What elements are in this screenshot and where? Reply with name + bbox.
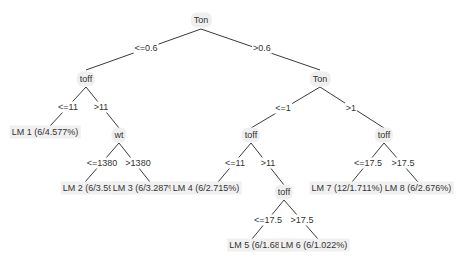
edge-label: <=11 [224,158,246,169]
edge-label: >17.5 [290,215,315,226]
edge-label: <=17.5 [253,215,283,226]
split-node: toff [77,72,95,87]
edge-label: >11 [93,102,110,113]
split-node: wt [112,128,127,143]
leaf-model: LM 1 (6/4.577%) [10,126,81,139]
edge-label: <=0.6 [133,43,158,54]
edge-label: <=11 [57,102,79,113]
split-node: toff [275,185,293,200]
edge-label: >17.5 [391,158,416,169]
edge-label: <=1380 [86,158,119,169]
split-node: toff [375,128,393,143]
leaf-model: LM 6 (6/1.022%) [279,239,350,252]
leaf-model: LM 8 (6/2.676%) [383,182,454,195]
split-node: Ton [310,72,331,87]
split-node: toff [242,128,260,143]
edge-label: >0.6 [252,43,272,54]
edge-label: >11 [260,158,277,169]
split-node: Ton [191,13,212,28]
edge-label: >1 [345,103,357,114]
edge-label: <=1 [274,103,292,114]
edge-label: <=17.5 [353,158,383,169]
edge-label: >1380 [124,158,151,169]
leaf-model: LM 7 (12/1.711%) [310,182,385,195]
leaf-model: LM 4 (6/2.715%) [171,182,242,195]
